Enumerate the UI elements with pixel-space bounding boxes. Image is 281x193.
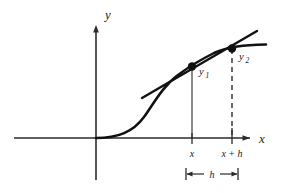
point-label-2: y 2 bbox=[238, 51, 250, 65]
interval-bracket-group: h bbox=[186, 168, 238, 180]
y-axis-label: y bbox=[103, 7, 111, 22]
secant-line bbox=[142, 31, 257, 98]
point-label-1: y 1 bbox=[198, 66, 209, 80]
x-axis-label: x bbox=[258, 131, 265, 146]
point-label-1-base: y bbox=[198, 66, 204, 77]
point-label-2-base: y bbox=[238, 51, 244, 62]
point-label-2-subscript: 2 bbox=[246, 56, 250, 65]
interval-label-h: h bbox=[210, 169, 215, 180]
axes-group bbox=[14, 25, 250, 180]
tick-label-x-plus-h: x + h bbox=[220, 148, 242, 159]
tick-label-x: x bbox=[189, 148, 195, 159]
diagram-canvas: y x y 1 y 2 x x + h h bbox=[0, 0, 281, 193]
secant-line-group bbox=[142, 31, 257, 98]
point-marker-1 bbox=[188, 62, 196, 70]
x-axis-ticks bbox=[192, 128, 232, 144]
interval-right-arrowhead bbox=[232, 172, 238, 177]
figure-root: y x y 1 y 2 x x + h h bbox=[0, 0, 281, 193]
point-label-1-subscript: 1 bbox=[206, 71, 210, 80]
interval-left-arrowhead bbox=[187, 172, 193, 177]
point-marker-2 bbox=[228, 44, 236, 52]
y-axis-arrowhead bbox=[93, 25, 99, 33]
x-axis-arrowhead bbox=[243, 135, 251, 141]
